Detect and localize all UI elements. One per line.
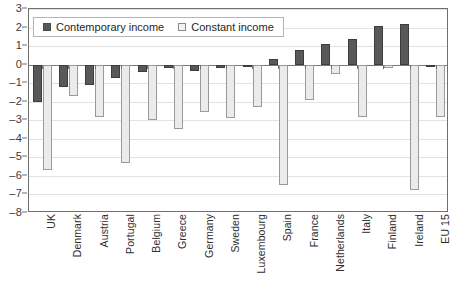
bar-group [424, 9, 447, 211]
bar-group [293, 9, 316, 211]
x-tick-mark [252, 65, 253, 69]
x-axis-label-france: France [308, 214, 320, 247]
legend-label-constant-income: Constant income [191, 21, 274, 33]
bar-group [346, 9, 369, 211]
x-axis-label-denmark: Denmark [71, 214, 83, 257]
bar-contemporary-income [348, 39, 357, 65]
bar-constant-income [436, 65, 445, 117]
y-tick-mark [22, 8, 27, 9]
bar-contemporary-income [33, 65, 42, 102]
legend-swatch-constant-income [178, 23, 186, 31]
x-axis: UKDenmarkAustriaPortugalBelgiumGreeceGer… [28, 214, 448, 288]
x-axis-label-netherlands: Netherlands [334, 214, 346, 272]
y-tick-label: –5 [9, 150, 22, 162]
chart-legend: Contemporary income Constant income [33, 17, 284, 37]
y-tick-mark [22, 137, 27, 138]
y-tick-mark [22, 100, 27, 101]
x-axis-label-belgium: Belgium [150, 214, 162, 253]
x-tick-mark [357, 65, 358, 69]
bar-constant-income [226, 65, 235, 119]
y-tick-mark [22, 212, 27, 213]
bar-contemporary-income [374, 26, 383, 65]
y-tick-label: –8 [9, 206, 22, 218]
legend-swatch-contemporary-income [43, 23, 51, 31]
bar-group [214, 9, 237, 211]
y-tick-mark [22, 156, 27, 157]
bar-constant-income [279, 65, 288, 186]
y-tick-mark [22, 45, 27, 46]
bar-constant-income [253, 65, 262, 108]
bar-group [57, 9, 80, 211]
x-tick-mark [331, 65, 332, 69]
bar-contemporary-income [190, 65, 199, 71]
bar-constant-income [200, 65, 209, 112]
x-tick-mark [305, 65, 306, 69]
x-axis-label-spain: Spain [281, 214, 293, 241]
bar-group [267, 9, 290, 211]
bar-contemporary-income [111, 65, 120, 78]
legend-label-contemporary-income: Contemporary income [56, 21, 164, 33]
x-axis-label-finland: Finland [386, 214, 398, 249]
x-axis-label-greece: Greece [176, 214, 188, 249]
bar-contemporary-income [164, 65, 173, 69]
y-axis: 3210–1–2–3–4–5–6–7–8 [0, 0, 28, 212]
bar-contemporary-income [59, 65, 68, 87]
x-tick-mark [68, 65, 69, 69]
bar-constant-income [410, 65, 419, 190]
x-tick-mark [278, 65, 279, 69]
bar-constant-income [331, 65, 340, 74]
bar-group [188, 9, 211, 211]
x-tick-mark [95, 65, 96, 69]
x-axis-label-eu-15: EU 15 [439, 214, 451, 244]
bar-group [136, 9, 159, 211]
bar-group [109, 9, 132, 211]
y-tick-mark [22, 119, 27, 120]
x-axis-label-austria: Austria [98, 214, 110, 247]
bar-group [31, 9, 54, 211]
x-axis-label-ireland: Ireland [413, 214, 425, 247]
x-tick-mark [383, 65, 384, 69]
x-axis-label-sweden: Sweden [229, 214, 241, 253]
bar-group [162, 9, 185, 211]
bar-constant-income [43, 65, 52, 171]
legend-entry-contemporary-income: Contemporary income [43, 21, 164, 33]
bar-constant-income [174, 65, 183, 129]
x-axis-label-uk: UK [45, 214, 57, 229]
bar-group [319, 9, 342, 211]
x-tick-mark [173, 65, 174, 69]
x-tick-mark [410, 65, 411, 69]
y-tick-mark [22, 63, 27, 64]
y-tick-mark [22, 26, 27, 27]
bar-group [372, 9, 395, 211]
bar-contemporary-income [243, 65, 252, 67]
x-tick-mark [121, 65, 122, 69]
y-tick-label: –2 [9, 95, 22, 107]
bar-contemporary-income [295, 50, 304, 65]
x-axis-label-luxembourg: Luxembourg [255, 214, 267, 273]
bar-contemporary-income [426, 65, 435, 67]
x-axis-label-germany: Germany [203, 214, 215, 258]
legend-entry-constant-income: Constant income [178, 21, 274, 33]
bar-contemporary-income [138, 65, 147, 72]
bar-constant-income [358, 65, 367, 117]
y-tick-label: –6 [9, 169, 22, 181]
bar-constant-income [121, 65, 130, 163]
x-axis-label-italy: Italy [360, 214, 372, 234]
bar-contemporary-income [216, 65, 225, 69]
y-tick-label: –7 [9, 187, 22, 199]
bar-constant-income [305, 65, 314, 100]
y-tick-mark [22, 193, 27, 194]
bar-contemporary-income [269, 59, 278, 65]
bar-contemporary-income [85, 65, 94, 85]
x-tick-mark [436, 65, 437, 69]
y-tick-mark [22, 174, 27, 175]
bar-group [398, 9, 421, 211]
bar-constant-income [148, 65, 157, 121]
plot-area [28, 8, 448, 212]
x-axis-label-portugal: Portugal [124, 214, 136, 254]
bar-constant-income [95, 65, 104, 117]
y-tick-label: –4 [9, 132, 22, 144]
bars-layer [29, 9, 447, 211]
x-tick-mark [147, 65, 148, 69]
y-tick-label: –1 [9, 76, 22, 88]
